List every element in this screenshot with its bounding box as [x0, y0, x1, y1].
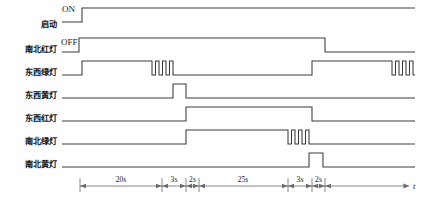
waveform-nanbei-huang [62, 153, 415, 167]
waveform-nanbei-lv [62, 130, 415, 144]
waveform-dongxi-lv [62, 61, 415, 75]
timing-diagram: 启动 南北红灯 东西绿灯 东西黄灯 东西红灯 南北绿灯 南北黄灯 ON OFF [0, 0, 429, 202]
state-label-on: ON [62, 4, 75, 14]
waveform-qidong [62, 8, 415, 22]
duration-label-1: 3s [171, 175, 178, 184]
waveform-dongxi-huang [62, 84, 415, 98]
signal-label-column: 启动 南北红灯 东西绿灯 东西黄灯 东西红灯 南北绿灯 南北黄灯 [25, 19, 58, 169]
timing-diagram-canvas: 启动 南北红灯 东西绿灯 东西黄灯 东西红灯 南北绿灯 南北黄灯 ON OFF [0, 0, 429, 202]
waveform-dongxi-hong [62, 107, 415, 121]
time-axis: t [80, 175, 416, 192]
time-axis-arrowhead [404, 184, 410, 189]
signal-label-qidong: 启动 [41, 19, 57, 29]
signal-label-dongxi-huang: 东西黄灯 [25, 90, 58, 100]
duration-label-2: 2s [189, 175, 196, 184]
signal-label-nanbei-hong: 南北红灯 [25, 44, 58, 54]
duration-label-3: 25s [238, 175, 249, 184]
duration-label-4: 3s [297, 175, 304, 184]
signal-label-dongxi-lv: 东西绿灯 [25, 67, 58, 77]
waveform-nanbei-hong [62, 38, 415, 52]
duration-label-0: 20s [116, 175, 127, 184]
time-axis-variable: t [413, 181, 416, 191]
state-label-off: OFF [61, 37, 78, 47]
signal-label-nanbei-huang: 南北黄灯 [25, 159, 58, 169]
signal-label-nanbei-lv: 南北绿灯 [25, 136, 58, 146]
duration-label-5: 2s [315, 175, 322, 184]
signal-label-dongxi-hong: 东西红灯 [25, 113, 58, 123]
